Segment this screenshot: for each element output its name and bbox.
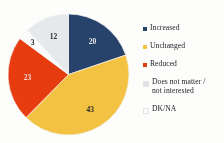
legend-swatch-icon [143, 81, 149, 87]
pie-chart: 204323312 IncreasedUnchangedReducedDoes … [0, 0, 224, 143]
chart-legend: IncreasedUnchangedReducedDoes not matter… [143, 24, 224, 123]
legend-item[interactable]: DK/NA [143, 105, 224, 114]
pie-data-label: 3 [31, 38, 35, 47]
legend-item-label: Reduced [150, 60, 177, 69]
legend-item-label: Does not matter / not interested [152, 78, 205, 95]
pie-svg: 204323312 [0, 0, 138, 143]
legend-item[interactable]: Does not matter / not interested [143, 78, 224, 95]
legend-item[interactable]: Unchanged [143, 42, 224, 51]
legend-item-label: DK/NA [152, 105, 176, 114]
legend-swatch-icon [143, 108, 149, 114]
legend-item[interactable]: Reduced [143, 60, 224, 69]
pie-data-label: 23 [24, 73, 32, 82]
pie-data-label: 20 [89, 37, 97, 46]
legend-item-label: Unchanged [150, 42, 185, 51]
legend-swatch-icon [143, 63, 147, 67]
legend-swatch-icon [143, 27, 147, 31]
pie-plot-area: 204323312 [0, 0, 138, 143]
legend-item[interactable]: Increased [143, 24, 224, 33]
legend-item-label: Increased [150, 24, 180, 33]
pie-data-label: 12 [50, 32, 58, 41]
legend-swatch-icon [143, 45, 147, 49]
pie-data-label: 43 [87, 105, 95, 114]
